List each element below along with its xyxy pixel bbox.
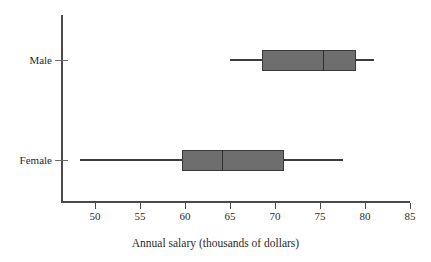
x-axis-tick <box>140 203 141 209</box>
y-axis-tick <box>55 60 68 61</box>
whisker-upper <box>284 159 343 161</box>
median-line <box>323 50 324 71</box>
whisker-lower <box>80 159 183 161</box>
x-axis-tick-label: 65 <box>210 210 250 223</box>
y-axis-tick-label-male: Male <box>29 54 52 66</box>
median-line <box>222 150 223 171</box>
box-iqr <box>182 150 284 171</box>
x-axis-tick <box>275 203 276 209</box>
y-axis-line <box>61 15 63 203</box>
x-axis-tick-label: 75 <box>300 210 340 223</box>
y-axis-tick <box>55 160 68 161</box>
x-axis-tick-label: 70 <box>255 210 295 223</box>
x-axis-tick-label: 55 <box>120 210 160 223</box>
box-iqr <box>262 50 357 71</box>
y-axis-tick-label-female: Female <box>20 154 52 166</box>
x-axis-tick-label: 50 <box>75 210 115 223</box>
x-axis-tick <box>320 203 321 209</box>
x-axis-title: Annual salary (thousands of dollars) <box>0 236 431 250</box>
x-axis-tick <box>230 203 231 209</box>
boxplot-chart: 5055606570758085 MaleFemale Annual salar… <box>0 0 431 262</box>
x-axis-tick <box>365 203 366 209</box>
x-axis-tick-label: 80 <box>345 210 385 223</box>
x-axis-tick <box>185 203 186 209</box>
x-axis-line <box>61 201 410 203</box>
x-axis-tick-label: 60 <box>165 210 205 223</box>
whisker-lower <box>230 59 262 61</box>
x-axis-tick-label: 85 <box>390 210 430 223</box>
x-axis-tick <box>410 203 411 209</box>
x-axis-tick <box>95 203 96 209</box>
whisker-upper <box>356 59 374 61</box>
